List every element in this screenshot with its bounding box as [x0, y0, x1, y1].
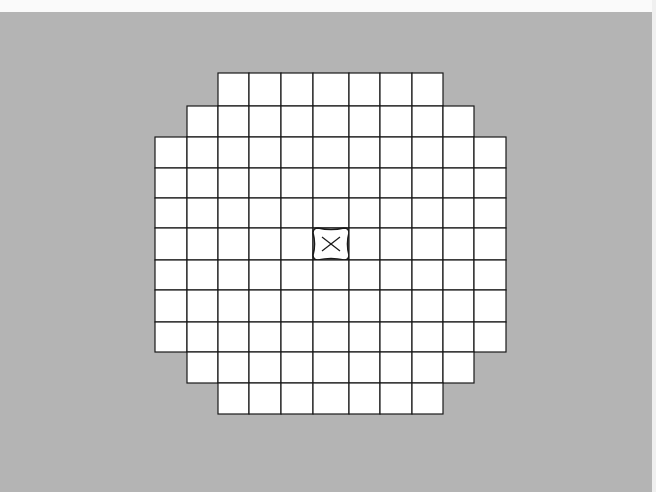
die-cell	[155, 137, 187, 168]
die-cell	[380, 106, 412, 137]
die-cell	[281, 73, 313, 106]
die-cell	[218, 73, 249, 106]
die-cell	[313, 352, 349, 383]
die-cell	[249, 137, 281, 168]
die-cell	[313, 383, 349, 414]
die-cell	[412, 137, 443, 168]
die-cell	[313, 260, 349, 290]
die-cell	[281, 106, 313, 137]
die-cell	[412, 73, 443, 106]
die-cell	[412, 198, 443, 228]
die-cell	[281, 383, 313, 414]
die-cell	[187, 168, 218, 198]
die-cell	[187, 290, 218, 322]
die-cell	[313, 322, 349, 352]
die-cell	[218, 260, 249, 290]
die-cell	[218, 228, 249, 260]
die-cell	[349, 322, 380, 352]
die-cell	[187, 228, 218, 260]
die-cell	[412, 260, 443, 290]
die-cell	[443, 322, 474, 352]
die-cell	[380, 228, 412, 260]
die-cell	[218, 290, 249, 322]
die-cell	[349, 137, 380, 168]
die-cell	[474, 322, 506, 352]
die-cell	[281, 352, 313, 383]
die-cell	[313, 137, 349, 168]
die-cell	[412, 352, 443, 383]
die-cell	[412, 290, 443, 322]
die-cell	[313, 73, 349, 106]
die-cell	[155, 228, 187, 260]
die-cell	[313, 168, 349, 198]
die-cell	[349, 106, 380, 137]
die-cell	[380, 168, 412, 198]
die-cell	[443, 260, 474, 290]
die-cell	[443, 290, 474, 322]
die-cell	[313, 290, 349, 322]
die-cell	[412, 106, 443, 137]
die-cell	[249, 290, 281, 322]
die-cell	[249, 73, 281, 106]
die-cell	[281, 260, 313, 290]
die-cell	[443, 168, 474, 198]
die-cell	[380, 383, 412, 414]
die-cell	[380, 322, 412, 352]
die-cell	[281, 290, 313, 322]
die-cell	[218, 322, 249, 352]
die-cell	[474, 198, 506, 228]
die-cell	[187, 260, 218, 290]
die-cell	[474, 168, 506, 198]
die-cell	[412, 168, 443, 198]
die-cell	[218, 168, 249, 198]
die-cell	[349, 228, 380, 260]
die-cell	[218, 198, 249, 228]
die-cell	[349, 260, 380, 290]
die-cell	[443, 137, 474, 168]
die-cell	[155, 168, 187, 198]
die-cell	[281, 137, 313, 168]
die-cell	[443, 106, 474, 137]
die-cell	[443, 352, 474, 383]
die-cell	[443, 198, 474, 228]
die-cell	[380, 137, 412, 168]
die-cell	[249, 106, 281, 137]
die-cell	[218, 106, 249, 137]
die-cell	[249, 198, 281, 228]
die-cell	[380, 352, 412, 383]
die-cell	[474, 260, 506, 290]
die-cell	[281, 198, 313, 228]
die-cell	[187, 198, 218, 228]
die-cell	[155, 322, 187, 352]
die-cell	[249, 322, 281, 352]
die-cell	[249, 383, 281, 414]
wafer-map-grid	[0, 0, 656, 492]
die-cell	[349, 383, 380, 414]
reference-die	[313, 228, 349, 260]
die-cell	[155, 260, 187, 290]
die-cell	[187, 106, 218, 137]
die-cell	[474, 290, 506, 322]
die-cell	[281, 228, 313, 260]
die-cell	[187, 352, 218, 383]
die-cell	[155, 290, 187, 322]
die-cell	[380, 260, 412, 290]
die-cell	[249, 260, 281, 290]
die-cell	[474, 137, 506, 168]
die-cell	[249, 352, 281, 383]
die-cell	[313, 106, 349, 137]
die-cell	[218, 383, 249, 414]
die-cell	[412, 383, 443, 414]
die-cell	[380, 290, 412, 322]
die-cell	[349, 168, 380, 198]
die-cell	[349, 290, 380, 322]
die-cell	[443, 228, 474, 260]
die-cell	[349, 352, 380, 383]
die-cell	[380, 198, 412, 228]
die-cell	[412, 322, 443, 352]
die-cell	[187, 137, 218, 168]
die-cell	[313, 198, 349, 228]
die-cell	[474, 228, 506, 260]
die-cell	[281, 322, 313, 352]
die-cell	[187, 322, 218, 352]
